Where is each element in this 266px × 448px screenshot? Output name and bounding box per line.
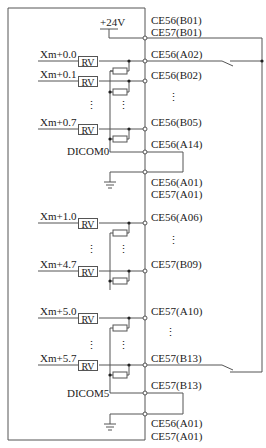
rv-component: RV — [78, 56, 98, 67]
terminal-icon — [143, 36, 147, 40]
input-label: Xm+5.7 — [40, 353, 76, 364]
rv-component: RV — [78, 124, 98, 135]
input-label: Xm+4.7 — [40, 259, 76, 270]
resistor-icon — [113, 89, 127, 95]
input-label: Xm+1.0 — [40, 211, 76, 222]
connector-label: CE57(B09) — [151, 259, 202, 270]
common-label: DICOM0 — [67, 146, 109, 157]
terminal-icon — [143, 127, 147, 131]
terminal-icon — [143, 150, 147, 154]
ellipsis-icon: ⋮ — [86, 100, 97, 111]
ellipsis-icon: ⋮ — [118, 244, 129, 255]
terminal-icon — [143, 269, 147, 273]
resistor-icon — [113, 230, 127, 236]
common-label: DICOM5 — [67, 388, 109, 399]
resistor-icon — [113, 136, 127, 142]
terminal-icon — [143, 316, 147, 320]
input-label: Xm+5.0 — [40, 306, 76, 317]
connector-label: CE56(A14) — [151, 139, 202, 150]
connector-label: CE57(B13) — [151, 380, 202, 391]
rv-component: RV — [78, 218, 98, 229]
connector-label: CE56(A01) — [151, 177, 202, 188]
rv-component: RV — [78, 360, 98, 371]
resistor-icon — [113, 372, 127, 378]
connector-label: CE56(B02) — [151, 70, 202, 81]
ellipsis-icon: ⋮ — [165, 327, 176, 338]
connector-label: CE57(B01) — [151, 27, 202, 38]
terminal-icon — [143, 170, 147, 174]
rv-component: RV — [78, 313, 98, 324]
connector-label: CE57(A01) — [151, 431, 202, 442]
ellipsis-icon: ⋮ — [118, 340, 129, 351]
resistor-icon — [113, 68, 127, 74]
ellipsis-icon: ⋮ — [86, 340, 97, 351]
terminal-icon — [143, 59, 147, 63]
connector-label: CE56(A02) — [151, 49, 202, 60]
terminal-icon — [143, 79, 147, 83]
connector-label: CE57(A10) — [151, 306, 202, 317]
supply-label: +24V — [100, 17, 125, 28]
connector-label: CE56(A06) — [151, 212, 202, 223]
ellipsis-icon: ⋮ — [168, 92, 179, 103]
input-label: Xm+0.0 — [40, 49, 76, 60]
connector-label: CE56(B05) — [151, 117, 202, 128]
terminal-icon — [143, 363, 147, 367]
terminal-icon — [143, 412, 147, 416]
connector-label: CE56(A01) — [151, 418, 202, 429]
terminal-icon — [143, 391, 147, 395]
input-label: Xm+0.7 — [40, 117, 76, 128]
input-label: Xm+0.1 — [40, 69, 76, 80]
resistor-icon — [113, 278, 127, 284]
rv-component: RV — [78, 266, 98, 277]
rv-component: RV — [78, 76, 98, 87]
ellipsis-icon: ⋮ — [168, 235, 179, 246]
connector-label: CE57(A01) — [151, 189, 202, 200]
switch-bottom — [222, 365, 233, 370]
connector-label: CE56(B01) — [151, 15, 202, 26]
terminal-icon — [143, 221, 147, 225]
ellipsis-icon: ⋮ — [118, 100, 129, 111]
ellipsis-icon: ⋮ — [86, 244, 97, 255]
resistor-icon — [113, 325, 127, 331]
connector-label: CE57(B13) — [151, 353, 202, 364]
switch-top — [222, 61, 233, 66]
